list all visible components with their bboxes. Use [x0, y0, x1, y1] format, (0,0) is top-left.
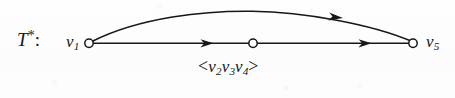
path-label-close-bracket: >: [248, 56, 258, 76]
graph-name-asterisk: *: [28, 28, 35, 43]
node-label-v1-subscript: 1: [74, 40, 80, 52]
edge-curved-v1-to-v5: [93, 11, 411, 41]
graph-name-colon: :: [35, 29, 40, 50]
node-label-v5-subscript: 5: [434, 40, 440, 52]
path-label-open-bracket: <: [198, 56, 208, 76]
node-label-v1-letter: v: [66, 32, 74, 51]
path-label-v2-letter: v: [208, 57, 216, 76]
figure-container: T*: v1 v5 <v2v3v4>: [0, 0, 455, 98]
node-v5: [409, 39, 417, 47]
graph-name-label: T*:: [17, 29, 40, 49]
node-v1: [85, 39, 93, 47]
path-label-v4-letter: v: [235, 57, 243, 76]
node-v-middle: [249, 39, 257, 47]
node-label-v5: v5: [426, 33, 439, 52]
node-label-v5-letter: v: [426, 32, 434, 51]
graph-name-letter: T: [17, 29, 28, 50]
path-label: <v2v3v4>: [198, 58, 259, 77]
node-label-v1: v1: [66, 33, 79, 52]
